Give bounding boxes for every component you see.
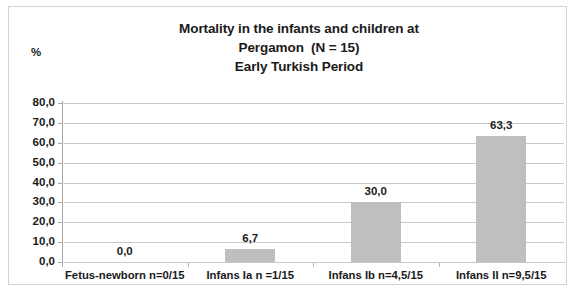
- y-tick-mark: [58, 103, 62, 104]
- chart-figure: Mortality in the infants and children at…: [0, 0, 580, 294]
- y-tick-mark: [58, 143, 62, 144]
- x-tick-mark: [313, 263, 314, 267]
- x-tick-mark: [439, 263, 440, 267]
- bar[interactable]: [225, 249, 275, 262]
- y-tick-mark: [58, 183, 62, 184]
- y-tick-label: 80,0: [11, 96, 55, 108]
- y-tick-mark: [58, 202, 62, 203]
- x-tick-mark: [188, 263, 189, 267]
- y-tick-label: 10,0: [11, 235, 55, 247]
- x-tick-label: Infans II n=9,5/15: [438, 269, 564, 281]
- y-tick-mark: [58, 222, 62, 223]
- chart-title-line-2: Pergamon (N = 15): [79, 38, 519, 57]
- bar-value-label: 0,0: [90, 245, 160, 257]
- bar-value-label: 63,3: [466, 119, 536, 131]
- y-tick-mark: [58, 163, 62, 164]
- chart-title-line-1: Mortality in the infants and children at: [79, 19, 519, 38]
- y-axis-unit-label: %: [31, 46, 41, 58]
- bar-value-label: 6,7: [215, 232, 285, 244]
- bar[interactable]: [476, 136, 526, 262]
- y-tick-label: 30,0: [11, 195, 55, 207]
- chart-title-line-3: Early Turkish Period: [79, 57, 519, 76]
- gridline: [62, 103, 564, 104]
- y-tick-label: 20,0: [11, 215, 55, 227]
- chart-title: Mortality in the infants and children at…: [79, 19, 519, 76]
- x-tick-label: Infans Ia n =1/15: [187, 269, 313, 281]
- y-tick-label: 40,0: [11, 176, 55, 188]
- y-tick-mark: [58, 123, 62, 124]
- chart-frame: Mortality in the infants and children at…: [8, 6, 567, 285]
- y-tick-mark: [58, 242, 62, 243]
- x-tick-label: Infans Ib n=4,5/15: [313, 269, 439, 281]
- bar[interactable]: [351, 202, 401, 262]
- bar-value-label: 30,0: [341, 185, 411, 197]
- y-tick-label: 60,0: [11, 136, 55, 148]
- y-tick-label: 70,0: [11, 116, 55, 128]
- x-tick-label: Fetus-newborn n=0/15: [62, 269, 188, 281]
- y-tick-mark: [58, 262, 62, 263]
- y-tick-label: 0,0: [11, 255, 55, 267]
- y-tick-label: 50,0: [11, 156, 55, 168]
